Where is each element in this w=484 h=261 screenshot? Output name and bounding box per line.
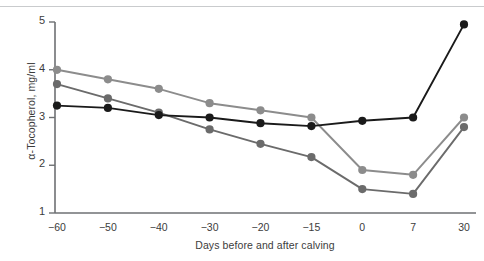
data-point [409, 171, 417, 179]
data-point [155, 85, 163, 93]
data-point [358, 185, 366, 193]
data-point [307, 113, 315, 121]
data-point [307, 153, 315, 161]
data-point [53, 102, 61, 110]
data-point [104, 104, 112, 112]
data-point [409, 113, 417, 121]
plot-area [0, 0, 484, 261]
data-point [460, 113, 468, 121]
data-point [358, 166, 366, 174]
data-point [256, 106, 264, 114]
data-point [460, 123, 468, 131]
series-dark-gray-series [53, 80, 468, 198]
data-series-group [53, 20, 468, 198]
series-line [57, 84, 464, 194]
data-point [104, 75, 112, 83]
data-point [307, 122, 315, 130]
data-point [155, 111, 163, 119]
data-point [256, 119, 264, 127]
data-point [206, 125, 214, 133]
data-point [104, 94, 112, 102]
data-point [409, 190, 417, 198]
data-point [358, 117, 366, 125]
data-point [206, 113, 214, 121]
data-point [256, 140, 264, 148]
data-point [53, 66, 61, 74]
chart-figure: α-Tocopherol, mg/ml Days before and afte… [0, 0, 484, 261]
data-point [206, 99, 214, 107]
data-point [53, 80, 61, 88]
data-point [460, 20, 468, 28]
